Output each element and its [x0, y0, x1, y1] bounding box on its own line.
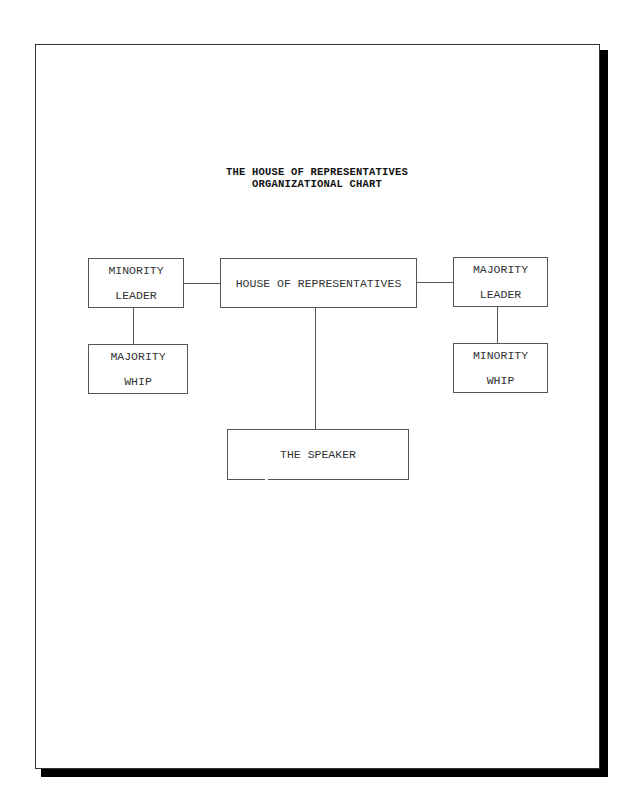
connector-minority-leader-majority-whip: [133, 307, 134, 344]
node-label: MAJORITY: [110, 344, 165, 369]
node-label: HOUSE OF REPRESENTATIVES: [236, 277, 402, 290]
document-page: [35, 44, 600, 769]
border-gap: [265, 478, 268, 480]
chart-title-line-1: THE HOUSE OF REPRESENTATIVES: [0, 166, 634, 178]
connector-house-majority-leader: [416, 282, 453, 283]
connector-majority-leader-minority-whip: [497, 306, 498, 343]
node-label: WHIP: [487, 368, 515, 393]
node-house-of-representatives: HOUSE OF REPRESENTATIVES: [220, 258, 417, 308]
node-label: WHIP: [124, 369, 152, 394]
node-minority-leader: MINORITY LEADER: [88, 258, 184, 308]
connector-house-minority-leader: [184, 283, 220, 284]
node-label: MAJORITY: [473, 257, 528, 282]
node-majority-whip: MAJORITY WHIP: [88, 344, 188, 394]
node-label: THE SPEAKER: [280, 448, 356, 461]
node-the-speaker: THE SPEAKER: [227, 429, 409, 480]
node-label: MINORITY: [473, 343, 528, 368]
chart-title: THE HOUSE OF REPRESENTATIVES ORGANIZATIO…: [0, 166, 634, 190]
node-label: LEADER: [480, 282, 521, 307]
node-label: LEADER: [115, 283, 156, 308]
chart-title-line-2: ORGANIZATIONAL CHART: [0, 178, 634, 190]
node-label: MINORITY: [108, 258, 163, 283]
node-minority-whip: MINORITY WHIP: [453, 343, 548, 393]
node-majority-leader: MAJORITY LEADER: [453, 257, 548, 307]
connector-house-speaker: [315, 307, 316, 429]
